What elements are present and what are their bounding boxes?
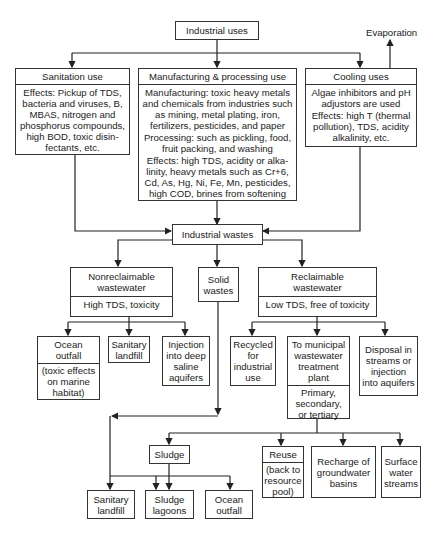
node-title: Cooling uses [306, 69, 416, 85]
node-ocean-outfall-toxic: Ocean outfall (toxic effects on marine h… [37, 336, 100, 400]
node-label: Recycled for industrial use [233, 339, 273, 383]
node-industrial-uses: Industrial uses [175, 21, 259, 40]
node-title: To municipal wastewater treatment plant [288, 337, 349, 386]
node-label: Sanitary landfill [111, 339, 147, 361]
node-title: Reclaimable wastewater [259, 268, 376, 297]
node-ocean-outfall-sludge: Ocean outfall [205, 490, 253, 519]
node-label: Disposal in streams or injection into aq… [362, 344, 415, 388]
node-text: High TDS, toxicity [71, 297, 172, 312]
node-sanitary-landfill-2: Sanitary landfill [87, 490, 135, 519]
edge-wastes-rec [262, 240, 302, 266]
node-text: Algae inhibitors and pH adjustors are us… [309, 87, 413, 109]
node-title: Reuse [263, 447, 303, 463]
node-text: Effects: high TDS, acidity or alka-linit… [142, 155, 293, 199]
node-text: (toxic effects on marine habitat) [38, 364, 99, 399]
node-label: Sanitary landfill [90, 494, 132, 516]
node-label: Sludge lagoons [148, 494, 191, 516]
node-label: Ocean outfall [208, 494, 250, 516]
node-text: Effects: high T (thermal pollution), TDS… [309, 110, 413, 143]
edge-wastes-nonrec [118, 240, 172, 266]
node-reuse: Reuse (back to resource pool) [262, 446, 304, 498]
node-label: Injection into deep saline aquifers [165, 339, 207, 383]
node-reclaimable-wastewater: Reclaimable wastewater Low TDS, free of … [258, 267, 377, 317]
node-text: Low TDS, free of toxicity [259, 297, 376, 312]
node-industrial-wastes: Industrial wastes [172, 224, 263, 245]
evaporation-label: Evaporation [366, 27, 417, 38]
node-label: Sludge [155, 449, 185, 460]
node-cooling-uses: Cooling uses Algae inhibitors and pH adj… [305, 68, 417, 147]
node-municipal-treatment: To municipal wastewater treatment plant … [287, 336, 350, 419]
node-sanitary-landfill-1: Sanitary landfill [108, 336, 150, 363]
node-sanitation-use: Sanitation use Effects: Pickup of TDS, b… [15, 68, 130, 155]
node-label: Recharge of groundwater basins [314, 456, 373, 489]
edge-solid-to-lagoons [110, 476, 156, 489]
node-recharge-groundwater: Recharge of groundwater basins [311, 446, 376, 498]
node-label: Surface water streams [384, 456, 418, 489]
node-label: Solid wastes [201, 274, 236, 296]
node-sludge-lagoons: Sludge lagoons [145, 490, 194, 519]
node-title: Ocean outfall [38, 337, 99, 364]
node-surface-water: Surface water streams [381, 446, 421, 498]
node-text: Primary, secondary, or tertiary [288, 386, 349, 421]
node-manufacturing-use: Manufacturing & processing use Manufactu… [138, 68, 297, 201]
node-solid-wastes: Solid wastes [198, 267, 239, 302]
node-title: Manufacturing & processing use [139, 69, 296, 85]
node-label: Industrial wastes [182, 229, 253, 240]
node-disposal-streams: Disposal in streams or injection into aq… [359, 336, 418, 396]
node-injection-aquifers: Injection into deep saline aquifers [162, 336, 210, 386]
node-nonreclaimable-wastewater: Nonreclaimable wastewater High TDS, toxi… [70, 267, 173, 317]
node-label: Industrial uses [186, 25, 248, 36]
node-text: Manufacturing: toxic heavy metals and ch… [142, 87, 293, 131]
node-title: Nonreclaimable wastewater [71, 268, 172, 297]
node-sludge: Sludge [149, 445, 190, 464]
node-text: (back to resource pool) [263, 463, 303, 498]
node-title: Sanitation use [16, 69, 129, 85]
node-recycled-industrial: Recycled for industrial use [230, 336, 276, 386]
node-text: Effects: Pickup of TDS, bacteria and vir… [19, 87, 126, 153]
node-text: Processing: such as pickling, food, frui… [142, 132, 293, 154]
